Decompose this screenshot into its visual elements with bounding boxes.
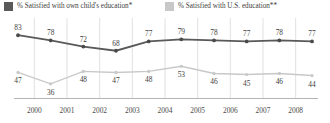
legend-item-own-child: % Satisfied with own child's education* (4, 2, 132, 11)
legend-item-us-education: % Satisfied with U.S. education** (165, 2, 277, 11)
data-label: 48 (145, 75, 153, 84)
data-label: 77 (243, 29, 251, 38)
data-point-marker (212, 39, 216, 43)
x-tick-label-2004: 2004 (158, 106, 173, 116)
data-label: 45 (243, 79, 251, 88)
x-tick-label-2007: 2007 (256, 106, 271, 116)
data-point-marker (147, 70, 150, 73)
plot-svg: 47364847485346454644 8378726877797877787… (0, 18, 330, 101)
data-label: 78 (47, 28, 55, 37)
data-label: 77 (308, 29, 316, 38)
legend-label-own-child: % Satisfied with own child's education* (17, 2, 132, 11)
data-point-marker (114, 71, 117, 74)
data-label: 68 (112, 39, 120, 48)
plot-area: 47364847485346454644 8378726877797877787… (0, 18, 330, 101)
data-point-marker (81, 45, 85, 49)
data-point-marker (49, 82, 52, 85)
data-point-marker (278, 72, 281, 75)
education-satisfaction-trend-chart: % Satisfied with own child's education* … (0, 0, 330, 123)
data-point-marker (245, 73, 248, 76)
data-label: 47 (112, 76, 120, 85)
data-label: 47 (14, 76, 22, 85)
data-label: 83 (14, 23, 22, 32)
x-tick-label-2008: 2008 (288, 106, 303, 116)
x-axis-tick-labels: 200020012002200320042005200620072008 (0, 101, 330, 123)
data-point-marker (180, 65, 183, 68)
x-tick-label-2003: 2003 (125, 106, 140, 116)
x-tick-label-2000: 2000 (27, 106, 42, 116)
data-label: 78 (276, 28, 284, 37)
x-tick-label-2001: 2001 (60, 106, 75, 116)
data-label: 78 (210, 28, 218, 37)
data-point-marker (16, 33, 20, 37)
x-tick-label-2005: 2005 (190, 106, 205, 116)
legend-swatch-own-child-icon (4, 2, 13, 11)
data-point-marker (212, 72, 215, 75)
data-point-marker (16, 71, 19, 74)
data-label: 72 (80, 35, 88, 44)
data-point-marker (310, 74, 313, 77)
legend-swatch-us-education-icon (165, 2, 174, 11)
chart-legend: % Satisfied with own child's education* … (0, 0, 330, 18)
data-label: 79 (178, 27, 186, 36)
data-point-marker (277, 39, 281, 43)
data-label: 46 (210, 77, 218, 86)
data-point-marker (147, 40, 151, 44)
data-label: 46 (276, 77, 284, 86)
data-label: 53 (178, 70, 186, 79)
data-point-marker (82, 70, 85, 73)
data-label: 77 (145, 29, 153, 38)
data-point-marker (114, 49, 118, 53)
data-label: 44 (308, 80, 316, 89)
legend-label-us-education: % Satisfied with U.S. education** (178, 2, 277, 11)
data-point-marker (245, 40, 249, 44)
data-point-marker (310, 40, 314, 44)
x-tick-label-2006: 2006 (223, 106, 238, 116)
x-tick-label-2002: 2002 (92, 106, 107, 116)
data-point-marker (49, 39, 53, 43)
data-label: 36 (47, 88, 55, 97)
gridlines (34, 18, 295, 98)
data-point-marker (179, 37, 183, 41)
data-label: 48 (80, 75, 88, 84)
